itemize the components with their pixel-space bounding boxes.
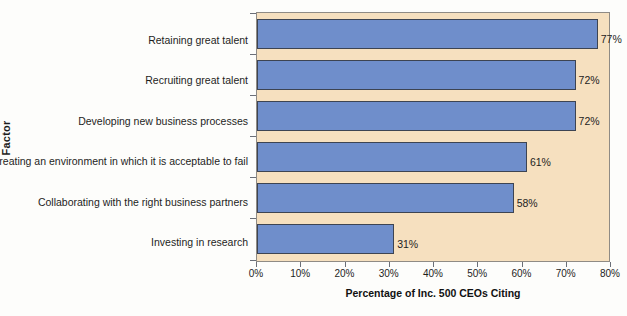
x-axis-title: Percentage of Inc. 500 CEOs Citing [256,287,610,299]
bar-3 [257,142,527,172]
value-label-3: 61% [530,156,551,168]
category-label: Recruiting great talent [145,74,248,86]
x-axis-tick-label: 60% [502,268,542,279]
category-label: Retaining great talent [148,34,248,46]
x-axis-tick-label: 50% [457,268,497,279]
x-axis-tick [477,262,478,267]
bar-4 [257,183,514,213]
x-axis-tick [256,262,257,267]
value-label-2: 72% [579,115,600,127]
x-axis-tick-label: 30% [369,268,409,279]
category-label: Creating an environment in which it is a… [0,155,248,167]
value-label-1: 72% [579,74,600,86]
x-axis-tick [566,262,567,267]
x-axis-tick [522,262,523,267]
bar-0 [257,19,598,49]
category-label: Collaborating with the right business pa… [38,196,248,208]
category-axis-labels: Retaining great talent Recruiting great … [30,12,252,262]
x-axis-tick-label: 20% [325,268,365,279]
plot-area [256,12,610,262]
x-axis-tick-label: 70% [546,268,586,279]
x-axis-tick-label: 80% [590,268,627,279]
category-label: Investing in research [151,236,248,248]
bar-2 [257,101,576,131]
x-axis-tick-label: 10% [280,268,320,279]
x-axis-tick [433,262,434,267]
x-axis-tick-label: 0% [236,268,276,279]
x-axis-tick [345,262,346,267]
x-axis-tick [300,262,301,267]
value-label-0: 77% [601,33,622,45]
bar-5 [257,224,394,254]
x-axis-tick [610,262,611,267]
category-label: Developing new business processes [78,115,248,127]
bar-1 [257,60,576,90]
value-label-4: 58% [517,197,538,209]
value-label-5: 31% [397,238,418,250]
x-axis-tick [389,262,390,267]
x-axis-tick-label: 40% [413,268,453,279]
